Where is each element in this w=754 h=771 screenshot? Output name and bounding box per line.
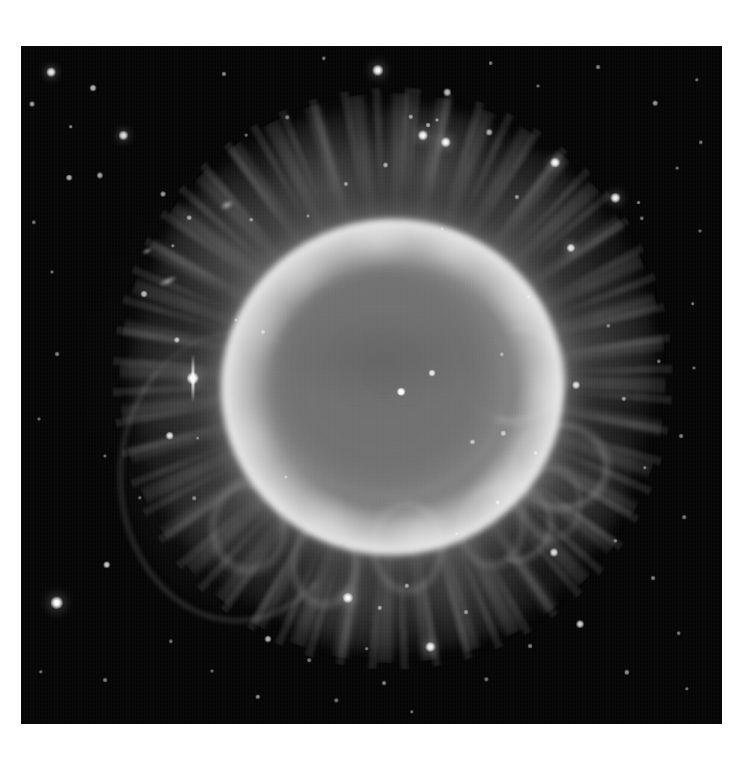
plate-alt-text: Grayscale telescope image of a planetary… xyxy=(0,0,1,1)
planetary-nebula-plate xyxy=(21,46,722,724)
sky-background xyxy=(21,46,722,724)
screenshot-root: Grayscale telescope image of a planetary… xyxy=(0,0,754,771)
